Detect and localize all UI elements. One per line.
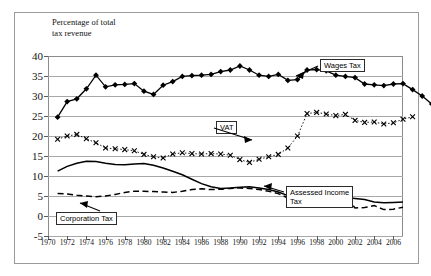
chart-figure: Percentage of total tax revenue -5051015… — [0, 0, 431, 276]
callout-arrows — [0, 0, 431, 276]
